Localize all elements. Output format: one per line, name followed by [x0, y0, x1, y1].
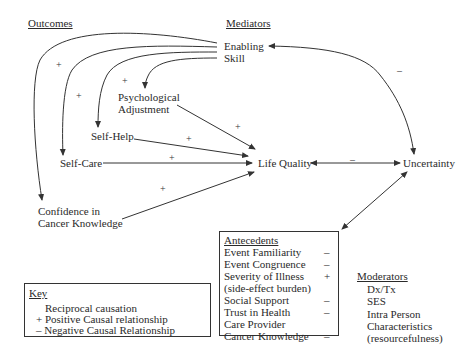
sign-enabling-selfcare: +: [76, 91, 82, 101]
sign-psych-lq: +: [235, 122, 241, 132]
antecedent-item: Social Support–: [224, 294, 338, 306]
node-psych-line2: Adjustment: [118, 103, 169, 115]
node-self-care: Self-Care: [60, 157, 102, 169]
edge-enabling-uncertainty: [269, 46, 414, 154]
antecedent-item: Event Familiarity–: [224, 246, 338, 258]
node-skill: Skill: [224, 52, 245, 64]
sign-selfcare-lq: +: [169, 153, 175, 163]
sign-selfhelp-lq: +: [186, 134, 192, 144]
mediators-heading: Mediators: [226, 17, 271, 29]
sign-enabling-uncertainty: –: [397, 66, 402, 76]
antecedent-item: Trust in Health–: [224, 306, 338, 318]
node-self-help: Self-Help: [91, 130, 134, 142]
moderator-item: Intra Person: [367, 308, 420, 320]
node-uncertainty: Uncertainty: [403, 157, 455, 169]
edge-antecedents-uncertainty: [342, 172, 407, 229]
sign-enabling-confidence: +: [56, 60, 62, 70]
node-confidence-line1: Confidence in: [38, 205, 100, 217]
moderator-item: SES: [367, 295, 386, 307]
key-title: Key: [29, 287, 47, 299]
key-item-negative: – Negative Causal Relationship: [36, 324, 175, 336]
node-psych-line1: Psychological: [118, 91, 180, 103]
edge-skill-psych: [145, 58, 217, 88]
antecedent-item: Cancer Knowledge–: [224, 330, 338, 342]
moderators-title: Moderators: [357, 270, 408, 282]
sign-confidence-lq: +: [160, 184, 166, 194]
edge-skill-selfhelp: [98, 52, 217, 127]
moderator-item: Dx/Tx: [367, 283, 396, 295]
antecedents-box: Antecedents Event Familiarity– Event Con…: [219, 231, 339, 336]
edge-confidence-lq: [122, 172, 254, 219]
moderator-item: Characteristics: [367, 320, 432, 332]
antecedent-item: (side-effect burden): [224, 282, 338, 294]
sign-skill-psych: +: [122, 76, 128, 86]
node-enabling: Enabling: [224, 40, 264, 52]
outcomes-heading: Outcomes: [28, 17, 73, 29]
moderator-item: (resourcefulness): [367, 332, 443, 344]
antecedents-title: Antecedents: [224, 234, 278, 246]
antecedent-item: Event Congruence–: [224, 258, 338, 270]
antecedent-item: Severity of Illness+: [224, 270, 338, 282]
key-box: Key Reciprocal causation + Positive Caus…: [24, 283, 211, 337]
antecedent-item: Care Provider: [224, 318, 338, 330]
sign-lq-uncertainty: –: [350, 155, 355, 165]
node-life-quality: Life Quality: [258, 157, 312, 169]
node-confidence-line2: Cancer Knowledge: [38, 217, 123, 229]
